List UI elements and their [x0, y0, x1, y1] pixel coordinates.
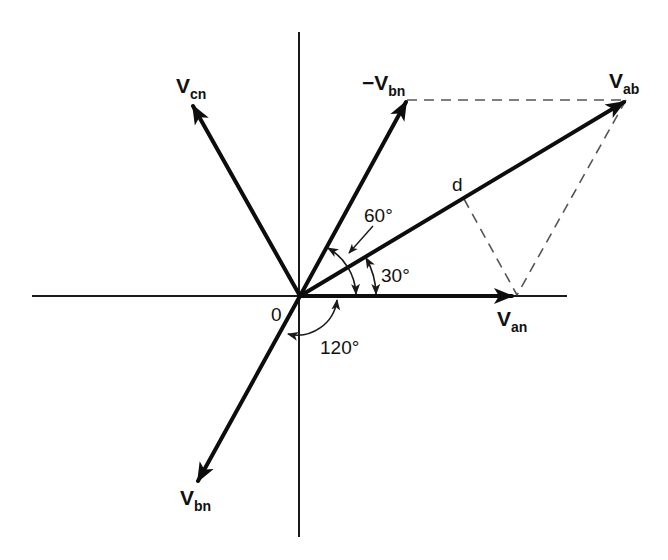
- phasor-vcn: [193, 106, 300, 296]
- dashed-line-vab-to-van: [517, 100, 626, 295]
- label-vcn: Vcn: [176, 74, 206, 102]
- label-angle-120: 120°: [320, 337, 359, 358]
- angle-arc-30: [366, 258, 376, 294]
- angle-60-leader: [349, 226, 373, 253]
- label-vab: Vab: [609, 69, 639, 97]
- label-origin: 0: [271, 304, 282, 325]
- label-vbn: Vbn: [180, 486, 211, 514]
- phasor-vab: [300, 102, 624, 296]
- label-neg-vbn: −Vbn: [362, 71, 405, 99]
- label-van: Van: [497, 307, 527, 335]
- phasor-diagram: Vcn −Vbn Vab Van Vbn d 0 60° 30° 120°: [0, 0, 668, 560]
- phasor-vbn: [198, 296, 300, 481]
- label-point-d: d: [452, 174, 463, 195]
- label-angle-60: 60°: [364, 205, 393, 226]
- dashed-line-d-to-van: [464, 199, 517, 295]
- label-angle-30: 30°: [381, 265, 410, 286]
